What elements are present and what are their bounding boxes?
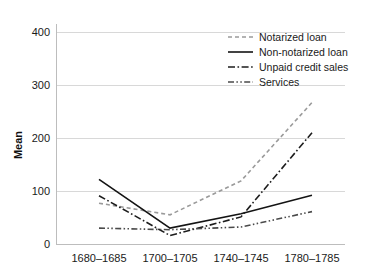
legend-label-notarized-loan: Notarized loan bbox=[259, 31, 327, 43]
series-line-non-notarized-loan bbox=[99, 179, 312, 228]
x-tick-label-1: 1680–1685 bbox=[71, 252, 126, 264]
y-tick-label-400: 400 bbox=[32, 26, 50, 38]
x-axis-ticklabels: 1680–1685 1700–1705 1740–1745 1780–1785 bbox=[71, 252, 339, 264]
y-tick-label-200: 200 bbox=[32, 132, 50, 144]
x-tick-label-2: 1700–1705 bbox=[142, 252, 197, 264]
series-line-unpaid-credit-sales bbox=[99, 133, 312, 236]
legend-label-services: Services bbox=[259, 76, 299, 88]
y-axis-title-group: Mean bbox=[12, 131, 24, 159]
y-tick-label-100: 100 bbox=[32, 185, 50, 197]
y-axis-ticklabels: 400 300 200 100 0 bbox=[32, 26, 50, 250]
x-tick-label-3: 1740–1745 bbox=[213, 252, 268, 264]
legend-label-non-notarized-loan: Non-notarized loan bbox=[259, 46, 348, 58]
x-tick-label-4: 1780–1785 bbox=[284, 252, 339, 264]
chart-canvas: 400 300 200 100 0 Mean 1680–1685 1700–17… bbox=[0, 0, 368, 277]
legend-label-unpaid-credit-sales: Unpaid credit sales bbox=[259, 61, 348, 73]
y-tick-label-300: 300 bbox=[32, 79, 50, 91]
line-chart: 400 300 200 100 0 Mean 1680–1685 1700–17… bbox=[0, 0, 368, 277]
series-line-notarized-loan bbox=[99, 103, 312, 215]
y-axis-title: Mean bbox=[12, 131, 24, 159]
legend: Notarized loan Non-notarized loan Unpaid… bbox=[228, 31, 348, 88]
y-tick-label-0: 0 bbox=[44, 238, 50, 250]
series-lines bbox=[99, 103, 312, 236]
